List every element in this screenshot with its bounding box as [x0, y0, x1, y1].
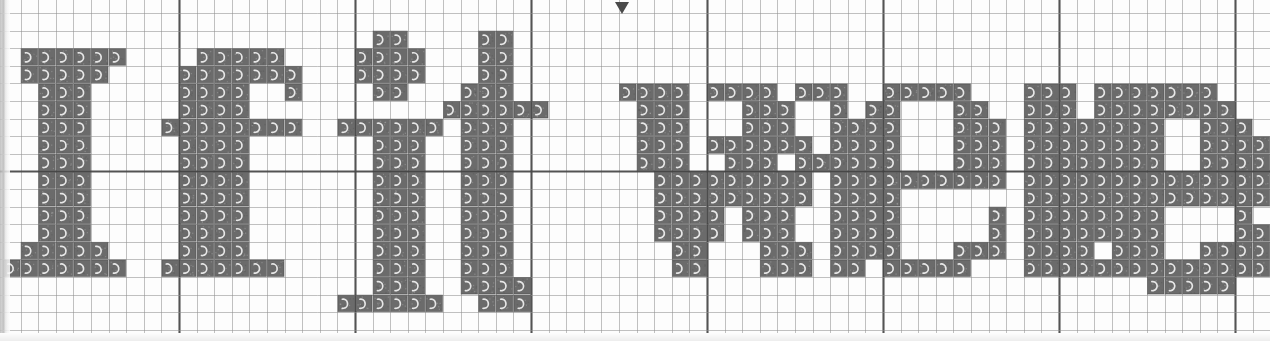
stitch-pattern-canvas: [0, 0, 1270, 341]
pattern-sheet: If it were If it were ): [0, 0, 1270, 341]
